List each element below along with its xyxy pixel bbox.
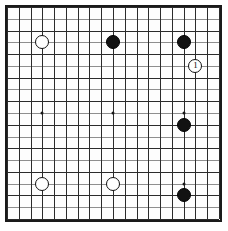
black-stone[interactable] [177,118,191,132]
black-stone[interactable] [177,35,191,49]
white-stone[interactable] [35,177,49,191]
stone-move-number: 1 [193,61,198,70]
white-stone[interactable]: 1 [188,59,202,73]
black-stone[interactable] [177,188,191,202]
white-stone[interactable] [35,35,49,49]
white-stone[interactable] [106,177,120,191]
go-board-diagram: 1 [0,0,228,231]
black-stone[interactable] [106,35,120,49]
stones-layer: 1 [0,0,228,231]
